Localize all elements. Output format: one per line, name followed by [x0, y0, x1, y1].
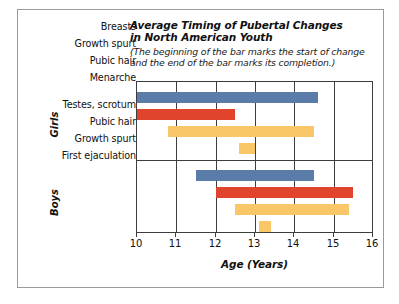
category-label-girls-growth-spurt: Growth spurt: [16, 38, 136, 49]
bar-girls-growth-spurt: [137, 109, 235, 120]
category-label-boys-first-ejaculation: First ejaculation: [16, 150, 136, 161]
x-tick-label-14: 14: [281, 238, 305, 249]
chart-subtitle-block: (The beginning of the bar marks the star…: [130, 46, 376, 69]
x-tick-14: [293, 233, 294, 237]
x-axis-title: Age (Years): [136, 258, 373, 270]
chart-title-block: Average Timing of Pubertal Changesin Nor…: [130, 19, 376, 69]
x-tick-15: [333, 233, 334, 237]
x-axis-ticks: 10111213141516: [136, 233, 373, 255]
bar-girls-breasts: [137, 92, 318, 103]
category-label-girls-breasts: Breasts: [16, 21, 136, 32]
chart-subtitle-line-2: and the end of the bar marks its complet…: [130, 57, 376, 68]
bar-boys-growth-spurt: [235, 204, 349, 215]
x-tick-10: [136, 233, 137, 237]
x-tick-label-16: 16: [360, 238, 384, 249]
category-label-boys-pubic-hair: Pubic hair: [16, 116, 136, 127]
category-labels: BreastsGrowth spurtPubic hairMenarcheTes…: [10, 10, 136, 162]
group-divider: [137, 160, 372, 161]
bar-girls-pubic-hair: [168, 126, 314, 137]
chart-figure: Average Timing of Pubertal Changesin Nor…: [17, 9, 384, 288]
group-label-girls: Girls: [49, 105, 60, 145]
x-tick-label-11: 11: [163, 238, 187, 249]
x-tick-11: [175, 233, 176, 237]
x-tick-label-10: 10: [124, 238, 148, 249]
category-label-boys-growth-spurt: Growth spurt: [16, 133, 136, 144]
x-tick-label-12: 12: [203, 238, 227, 249]
plot-area: [136, 81, 373, 233]
gridline-12: [216, 82, 217, 232]
category-label-girls-pubic-hair: Pubic hair: [16, 55, 136, 66]
bar-boys-testes-scrotum: [196, 170, 314, 181]
chart-subtitle-line-1: (The beginning of the bar marks the star…: [130, 46, 376, 57]
x-tick-label-15: 15: [321, 238, 345, 249]
gridline-11: [176, 82, 177, 232]
bar-boys-first-ejaculation: [259, 221, 271, 232]
chart-title-line-1: Average Timing of Pubertal Changes: [130, 19, 376, 31]
group-label-boys: Boys: [49, 183, 60, 223]
x-tick-16: [372, 233, 373, 237]
x-tick-13: [254, 233, 255, 237]
x-tick-12: [215, 233, 216, 237]
x-tick-label-13: 13: [242, 238, 266, 249]
bar-boys-pubic-hair: [216, 187, 354, 198]
category-label-girls-menarche: Menarche: [16, 72, 136, 83]
bar-girls-menarche: [239, 143, 255, 154]
chart-title-line-2: in North American Youth: [130, 31, 376, 43]
category-label-boys-testes-scrotum: Testes, scrotum: [16, 99, 136, 110]
